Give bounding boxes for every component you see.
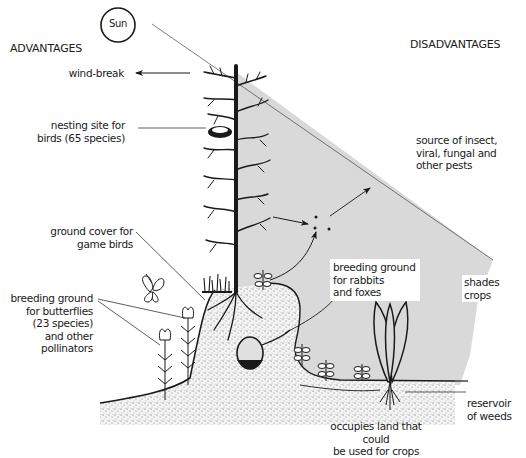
- label-reservoir-weeds: reservoir of weeds: [467, 397, 512, 422]
- label-shades-crops: shades crops: [462, 275, 526, 302]
- butterfly-icon: [143, 274, 164, 302]
- label-rabbits-foxes: breeding ground for rabbits and foxes: [330, 259, 420, 301]
- sun-label: Sun: [100, 18, 136, 31]
- label-pests: source of insect, viral, fungal and othe…: [416, 134, 497, 172]
- label-occupies-land: occupies land that could be used for cro…: [316, 420, 436, 458]
- label-wind-break: wind-break: [40, 67, 124, 80]
- advantages-heading: ADVANTAGES: [10, 43, 82, 56]
- label-butterflies: breeding ground for butterflies (23 spec…: [0, 292, 93, 355]
- label-nesting-site: nesting site for birds (65 species): [20, 119, 125, 144]
- disadvantages-heading: DISADVANTAGES: [410, 39, 500, 52]
- label-ground-cover: ground cover for game birds: [20, 225, 133, 250]
- nest-icon: [208, 126, 232, 138]
